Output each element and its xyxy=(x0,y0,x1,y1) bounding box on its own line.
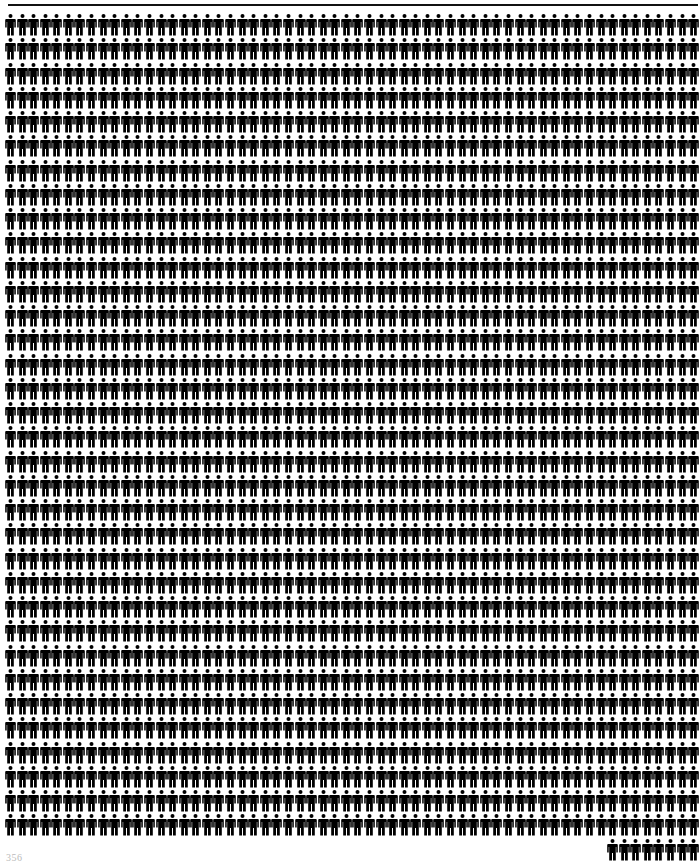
person-icon xyxy=(480,596,491,618)
person-icon xyxy=(399,451,410,473)
person-icon xyxy=(572,281,583,303)
person-icon xyxy=(352,38,363,60)
person-icon xyxy=(503,329,514,351)
person-icon xyxy=(457,645,468,667)
person-icon xyxy=(40,451,51,473)
person-icon xyxy=(248,111,259,133)
person-icon xyxy=(630,14,641,36)
person-icon xyxy=(237,693,248,715)
person-icon xyxy=(295,14,306,36)
person-icon xyxy=(109,63,120,85)
person-icon xyxy=(156,548,167,570)
person-icon xyxy=(329,620,340,642)
person-icon xyxy=(74,499,85,521)
person-icon xyxy=(410,499,421,521)
person-icon xyxy=(260,548,271,570)
person-icon xyxy=(422,257,433,279)
person-icon xyxy=(132,814,143,836)
person-icon xyxy=(584,257,595,279)
person-icon xyxy=(584,354,595,376)
person-icon xyxy=(572,475,583,497)
person-icon xyxy=(619,257,630,279)
person-icon xyxy=(28,620,39,642)
person-icon xyxy=(364,184,375,206)
person-icon xyxy=(399,184,410,206)
person-icon xyxy=(630,839,641,861)
person-icon xyxy=(422,766,433,788)
person-icon xyxy=(410,257,421,279)
person-icon xyxy=(665,499,676,521)
person-icon xyxy=(480,645,491,667)
person-icon xyxy=(677,184,688,206)
person-icon xyxy=(503,87,514,109)
person-icon xyxy=(503,38,514,60)
person-icon xyxy=(410,232,421,254)
person-icon xyxy=(468,14,479,36)
person-icon xyxy=(271,451,282,473)
person-icon xyxy=(179,63,190,85)
person-icon xyxy=(86,620,97,642)
person-icon xyxy=(190,111,201,133)
person-icon xyxy=(260,426,271,448)
person-icon xyxy=(653,14,664,36)
person-icon xyxy=(491,620,502,642)
person-icon xyxy=(51,402,62,424)
person-icon xyxy=(283,305,294,327)
person-icon xyxy=(295,257,306,279)
person-icon xyxy=(572,766,583,788)
person-icon xyxy=(190,63,201,85)
person-icon xyxy=(561,790,572,812)
person-icon xyxy=(688,426,699,448)
person-icon xyxy=(445,693,456,715)
person-icon xyxy=(306,620,317,642)
person-icon xyxy=(619,426,630,448)
person-icon xyxy=(190,14,201,36)
person-icon xyxy=(352,451,363,473)
person-icon xyxy=(364,523,375,545)
person-icon xyxy=(376,354,387,376)
person-icon xyxy=(584,572,595,594)
person-icon xyxy=(399,548,410,570)
person-icon xyxy=(410,329,421,351)
person-icon xyxy=(190,523,201,545)
person-icon xyxy=(144,14,155,36)
person-icon xyxy=(63,402,74,424)
person-icon xyxy=(457,766,468,788)
person-icon xyxy=(5,742,16,764)
person-icon xyxy=(457,378,468,400)
person-icon xyxy=(341,184,352,206)
person-icon xyxy=(202,208,213,230)
person-icon xyxy=(619,814,630,836)
person-icon xyxy=(28,87,39,109)
person-icon xyxy=(526,329,537,351)
person-icon xyxy=(283,14,294,36)
person-icon xyxy=(596,63,607,85)
person-icon xyxy=(329,548,340,570)
person-icon xyxy=(225,523,236,545)
person-icon xyxy=(132,499,143,521)
person-icon xyxy=(549,402,560,424)
person-icon xyxy=(260,669,271,691)
person-icon xyxy=(480,693,491,715)
person-icon xyxy=(630,523,641,545)
person-icon xyxy=(5,87,16,109)
person-icon xyxy=(341,38,352,60)
person-icon xyxy=(561,523,572,545)
person-icon xyxy=(387,160,398,182)
person-icon xyxy=(526,281,537,303)
person-icon xyxy=(538,63,549,85)
person-icon xyxy=(271,742,282,764)
person-icon xyxy=(596,426,607,448)
person-icon xyxy=(295,645,306,667)
person-icon xyxy=(86,548,97,570)
person-icon xyxy=(665,548,676,570)
person-icon xyxy=(642,184,653,206)
person-icon xyxy=(653,38,664,60)
person-icon xyxy=(526,523,537,545)
person-icon xyxy=(132,14,143,36)
person-icon xyxy=(607,184,618,206)
person-icon xyxy=(306,402,317,424)
person-icon xyxy=(40,63,51,85)
person-icon xyxy=(457,475,468,497)
person-icon xyxy=(109,742,120,764)
